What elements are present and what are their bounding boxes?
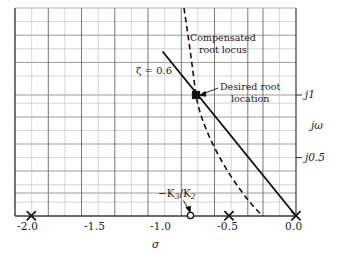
desired-root-marker <box>192 91 199 98</box>
annotation-compensated-root-locus: Compensated root locus <box>190 33 256 54</box>
y-tick-label-j1: j1 <box>305 89 315 100</box>
x-tick-label-1: -1.5 <box>84 221 105 232</box>
gain-ratio-prefix: −K <box>158 187 175 199</box>
compensated-line-2: root locus <box>190 45 256 55</box>
root-locus-figure: -2.0 -1.5 -1.0 -0.5 0.0 σ j1 j0.5 jω Com… <box>0 0 339 257</box>
x-tick-label-3: -0.5 <box>217 221 238 232</box>
annotation-gain-ratio: −K3/K2 <box>158 188 196 201</box>
x-tick-label-2: -1.0 <box>150 221 171 232</box>
gain-ratio-slash: /K <box>179 187 190 199</box>
annotation-desired-root-location: Desired root location <box>220 82 280 103</box>
desired-line-2: location <box>220 94 280 104</box>
jw-axis-ticks <box>296 95 302 158</box>
grid-major-horizontal <box>15 35 296 193</box>
root-locus-plot <box>0 0 339 257</box>
y-axis-label: jω <box>311 120 323 131</box>
gain-ratio-sub-2: 2 <box>191 192 196 201</box>
annotation-zeta: ζ = 0.6 <box>136 66 172 76</box>
y-tick-label-j05: j0.5 <box>305 152 325 163</box>
desired-line-1: Desired root <box>220 82 280 92</box>
x-tick-label-4: 0.0 <box>285 221 302 232</box>
x-tick-label-0: -2.0 <box>17 221 38 232</box>
compensated-line-1: Compensated <box>190 33 256 43</box>
x-axis-label: σ <box>152 239 159 250</box>
